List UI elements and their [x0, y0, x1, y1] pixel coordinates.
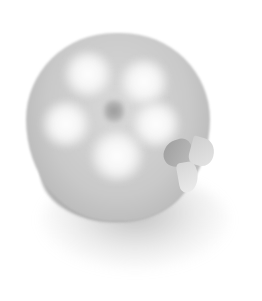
lobe-bottom	[88, 130, 146, 182]
object-center	[104, 100, 124, 122]
lobe-left	[40, 100, 92, 148]
photo-scene	[0, 0, 262, 301]
lobe-top-right	[118, 58, 170, 106]
lobe-top-left	[62, 50, 114, 98]
